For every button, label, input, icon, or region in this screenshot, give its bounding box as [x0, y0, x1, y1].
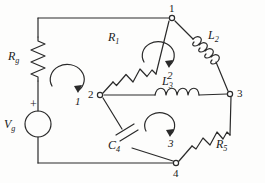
wire-l2-n3	[216, 62, 228, 91]
label-r1: R1	[108, 30, 119, 46]
label-l2: L2	[208, 28, 219, 44]
wire-r1-n1	[156, 21, 169, 74]
label-r5: R5	[216, 137, 227, 153]
node-label-2: 2	[88, 88, 94, 100]
node-1-marker	[169, 15, 174, 20]
capacitor-c4-plate-a	[116, 124, 134, 135]
wire-n2-c4	[103, 98, 122, 129]
wire-n2-r1	[103, 82, 113, 93]
mesh-3-arrowhead	[166, 129, 174, 137]
node-2-marker	[97, 92, 102, 97]
wire-n1-l2	[175, 21, 193, 39]
node-label-3: 3	[237, 87, 243, 99]
schematic-canvas	[0, 0, 265, 183]
source-polarity-plus: +	[30, 97, 37, 112]
node-4-marker	[173, 160, 178, 165]
label-rg: Rg	[8, 49, 19, 65]
wire-n4-r5	[179, 146, 192, 161]
wire-l3-n3	[199, 94, 227, 95]
node-label-4: 4	[173, 167, 179, 179]
circuit-diagram: Rg R1 L2 L3 C4 R5 Vg + 1 2 3 4 1 2 3	[0, 0, 265, 183]
resistor-r1-symbol	[113, 69, 156, 86]
mesh-label-1: 1	[75, 95, 81, 107]
label-vg: Vg	[4, 117, 15, 133]
mesh-label-3: 3	[168, 137, 174, 149]
source-vg-symbol	[25, 111, 51, 137]
capacitor-c4-plate-b	[120, 130, 138, 141]
node-3-marker	[227, 91, 232, 96]
wire-c4-n4	[132, 148, 173, 161]
label-c4: C4	[108, 138, 120, 154]
mesh-label-2: 2	[167, 69, 173, 81]
wire-r5-n3	[230, 97, 231, 135]
node-label-1: 1	[169, 2, 175, 14]
resistor-rg-symbol	[31, 37, 45, 81]
